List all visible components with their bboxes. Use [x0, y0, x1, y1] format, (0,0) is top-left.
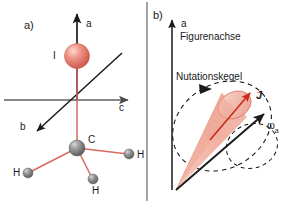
atom-label-hydrogen-front: H — [92, 186, 99, 196]
panel-b-tag: b) — [153, 10, 163, 21]
axis-label-c: c — [119, 103, 124, 113]
atom-hydrogen-front — [88, 174, 98, 184]
atom-label-iodine: I — [53, 51, 56, 61]
atom-carbon — [69, 140, 85, 156]
axis-label-a: a — [86, 19, 92, 29]
atom-label-carbon: C — [88, 135, 95, 145]
angular-momentum-label: J — [256, 90, 265, 101]
atom-hydrogen-left — [23, 168, 33, 178]
figure-canvas — [0, 0, 287, 203]
panel-b-graphics — [156, 20, 287, 190]
angular-momentum-label-group: → J — [255, 86, 264, 102]
angular-velocity-label-group: ωa — [267, 115, 279, 134]
atom-iodine — [65, 44, 90, 69]
nutation-cone-shade — [176, 95, 234, 190]
angular-velocity-symbol: ω — [267, 120, 275, 131]
figure-axis-symbol: a — [181, 19, 187, 29]
figure-axis-name: Figurenachse — [180, 32, 241, 42]
panel-a-graphics — [4, 14, 134, 184]
angular-velocity-subscript: a — [275, 127, 279, 134]
figure-root: a) a b c I C H H H b) a Figurenachse Nut… — [0, 0, 287, 203]
nutation-cone-name: Nutationskegel — [176, 72, 242, 82]
atom-label-hydrogen-left: H — [13, 168, 20, 178]
atom-hydrogen-right — [124, 149, 134, 159]
atom-label-hydrogen-right: H — [137, 150, 144, 160]
axis-label-b: b — [20, 122, 26, 132]
panel-a-tag: a) — [24, 20, 34, 31]
